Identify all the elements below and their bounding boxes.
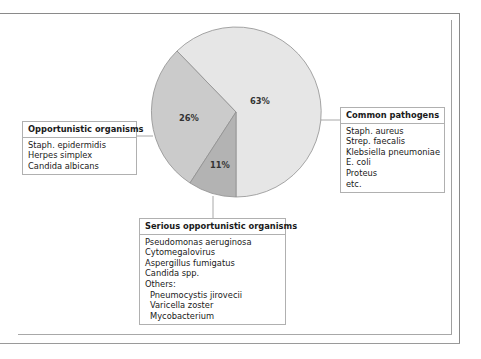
serious-sub-item: Pneumocystis jirovecii: [145, 290, 280, 301]
common-pathogens-box: Common pathogens Staph. aureus Strep. fa…: [340, 107, 445, 193]
serious-item: Aspergillus fumigatus: [145, 258, 280, 269]
common-item: Proteus: [346, 168, 439, 179]
serious-item: Others:: [145, 279, 280, 290]
common-item: Strep. faecalis: [346, 136, 439, 147]
opportunistic-item: Candida albicans: [28, 161, 131, 172]
serious-sub-item: Mycobacterium: [145, 311, 280, 322]
serious-item: Cytomegalovirus: [145, 247, 280, 258]
opportunistic-title: Opportunistic organisms: [23, 122, 136, 138]
label-serious-percent: 11%: [210, 160, 230, 170]
label-common-percent: 63%: [250, 96, 270, 106]
common-item: Staph. aureus: [346, 126, 439, 137]
opportunistic-item: Herpes simplex: [28, 150, 131, 161]
serious-sub-item: Varicella zoster: [145, 300, 280, 311]
serious-opportunistic-box: Serious opportunistic organisms Pseudomo…: [139, 218, 286, 325]
serious-item: Candida spp.: [145, 268, 280, 279]
serious-title: Serious opportunistic organisms: [140, 219, 285, 235]
common-item: E. coli: [346, 157, 439, 168]
label-opportunistic-percent: 26%: [179, 113, 199, 123]
common-title: Common pathogens: [341, 108, 444, 124]
common-item: etc.: [346, 179, 439, 190]
serious-item: Pseudomonas aeruginosa: [145, 237, 280, 248]
opportunistic-box: Opportunistic organisms Staph. epidermid…: [22, 121, 137, 175]
opportunistic-item: Staph. epidermidis: [28, 140, 131, 151]
common-item: Klebsiella pneumoniae: [346, 147, 439, 158]
